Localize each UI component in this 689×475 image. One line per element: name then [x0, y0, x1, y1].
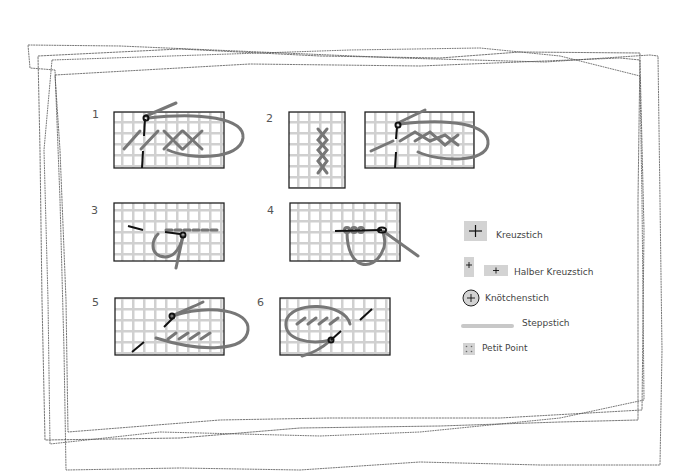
diagram-canvas: 1 2 3 4 5 6 — [0, 0, 689, 475]
stitch-panel-2b — [365, 110, 488, 168]
legend-label-kreuzstich: Kreuzstich — [496, 230, 543, 240]
panel-number-5: 5 — [92, 296, 99, 309]
panel-number-2: 2 — [266, 112, 273, 125]
stitch-panel-4 — [290, 203, 418, 265]
stitch-panel-1 — [114, 103, 243, 168]
stitch-panel-6 — [280, 298, 390, 356]
legend-label-knoetchenstich: Knötchenstich — [485, 293, 549, 303]
stitch-panel-5 — [115, 298, 248, 355]
dots-square-icon — [463, 343, 475, 355]
panel-number-4: 4 — [267, 204, 274, 217]
stitch-panel-2a — [289, 112, 345, 188]
panel-number-1: 1 — [92, 108, 99, 121]
stitch-panel-3 — [114, 203, 224, 268]
cross-square-icon — [464, 221, 487, 241]
legend — [463, 221, 512, 355]
panel-number-3: 3 — [91, 204, 98, 217]
legend-label-halber-kreuzstich: Halber Kreuzstich — [514, 267, 593, 277]
legend-label-petit-point: Petit Point — [482, 343, 527, 353]
panel-number-6: 6 — [257, 296, 264, 309]
half-cross-icon — [464, 257, 508, 277]
knot-circle-icon — [463, 290, 479, 306]
legend-label-steppstich: Steppstich — [522, 318, 570, 328]
